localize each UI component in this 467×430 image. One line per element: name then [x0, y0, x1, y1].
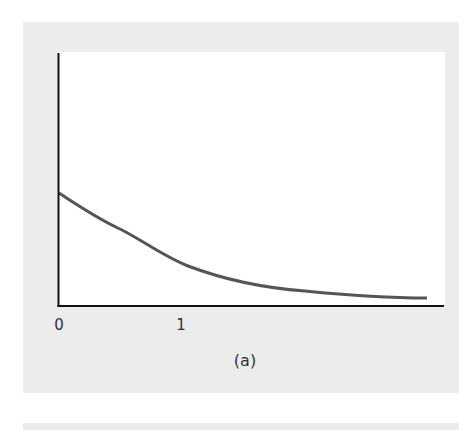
decay-curve	[59, 193, 427, 298]
next-panel-edge	[23, 423, 459, 430]
x-tick-0: 0	[54, 316, 64, 334]
x-tick-1: 1	[176, 316, 186, 334]
figure-caption: (a)	[234, 351, 256, 370]
